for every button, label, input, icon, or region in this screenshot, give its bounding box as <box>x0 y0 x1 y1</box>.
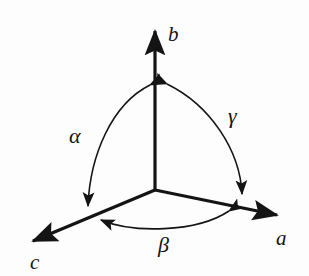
angle-arc-gamma <box>167 84 242 194</box>
axis-line-a <box>155 190 277 215</box>
angle-arc-beta <box>101 211 229 229</box>
axis-label-b: b <box>168 24 179 45</box>
angle-label-alpha: α <box>69 125 81 147</box>
diagram-canvas <box>0 0 309 276</box>
crystal-axes-diagram: a b c α β γ <box>0 0 309 276</box>
axis-label-c: c <box>30 252 39 273</box>
angle-label-gamma: γ <box>228 105 237 127</box>
axis-line-c <box>33 190 155 241</box>
axis-label-a: a <box>276 228 287 249</box>
angle-label-beta: β <box>158 234 169 256</box>
angle-arc-alpha <box>88 85 150 206</box>
